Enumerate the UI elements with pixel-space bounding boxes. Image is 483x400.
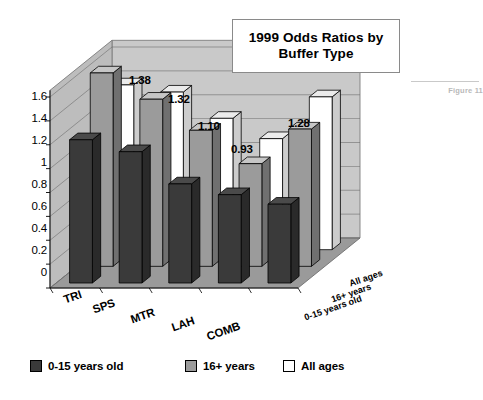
- value-label-4: 1.28: [288, 117, 310, 129]
- bar-side-face: [142, 145, 150, 283]
- y-tick-5: 0.6: [17, 200, 47, 212]
- y-tick-6: 0.4: [17, 222, 47, 234]
- bar-front-face: [70, 140, 93, 283]
- x-tick-mark-1: [100, 288, 103, 293]
- bar-0-15-years-old-TRI: [70, 133, 101, 283]
- y-tick-3: 1: [17, 156, 47, 168]
- bar-front-face: [268, 204, 291, 283]
- bar-side-face: [92, 133, 100, 283]
- x-tick-mark-5: [298, 288, 301, 293]
- bar-0-15-years-old-MTR: [169, 177, 200, 283]
- legend-swatch-icon-2: [283, 360, 295, 372]
- chart-legend: 0-15 years old16+ yearsAll ages: [30, 360, 360, 380]
- value-label-2: 1.10: [198, 120, 220, 132]
- bar-0-15-years-old-SPS: [119, 145, 150, 283]
- legend-label-2: All ages: [301, 360, 344, 372]
- y-tick-4: 0.8: [17, 178, 47, 190]
- legend-swatch-icon-0: [30, 360, 42, 372]
- chart-title-line-2: Buffer Type: [278, 46, 353, 62]
- legend-label-1: 16+ years: [203, 360, 255, 372]
- bar-side-face: [332, 90, 340, 249]
- figure-caption: Figure 11: [413, 86, 483, 95]
- bar-side-face: [192, 177, 200, 283]
- bar-side-face: [291, 198, 299, 283]
- legend-swatch-icon-1: [185, 360, 197, 372]
- x-tick-mark-2: [149, 288, 152, 293]
- chart-title-box: 1999 Odds Ratios by Buffer Type: [232, 19, 400, 73]
- bar-front-face: [119, 152, 142, 283]
- x-tick-mark-0: [50, 288, 53, 293]
- legend-item-1[interactable]: 16+ years: [185, 360, 255, 372]
- value-label-3: 0.93: [231, 143, 253, 155]
- y-tick-8: 0: [17, 266, 47, 278]
- bar-0-15-years-old-LAH: [218, 188, 249, 283]
- x-tick-mark-3: [199, 288, 202, 293]
- chart-title-line-1: 1999 Odds Ratios by: [249, 30, 384, 46]
- y-tick-7: 0.2: [17, 244, 47, 256]
- y-tick-1: 1.4: [17, 112, 47, 124]
- y-tick-2: 1.2: [17, 134, 47, 146]
- y-tick-0: 1.6: [17, 90, 47, 102]
- bar-front-face: [218, 195, 241, 283]
- figure-caption-rule: [411, 81, 479, 82]
- bar-front-face: [169, 184, 192, 283]
- legend-item-0[interactable]: 0-15 years old: [30, 360, 123, 372]
- figure-root: 1.61.41.210.80.60.40.20 1.381.321.100.93…: [0, 0, 483, 400]
- bar-side-face: [311, 122, 319, 266]
- bar-side-face: [241, 188, 249, 283]
- value-label-0: 1.38: [129, 74, 151, 86]
- bar-0-15-years-old-COMB: [268, 198, 299, 283]
- value-label-1: 1.32: [168, 93, 190, 105]
- legend-label-0: 0-15 years old: [48, 360, 123, 372]
- x-tick-mark-4: [248, 288, 251, 293]
- legend-item-2[interactable]: All ages: [283, 360, 344, 372]
